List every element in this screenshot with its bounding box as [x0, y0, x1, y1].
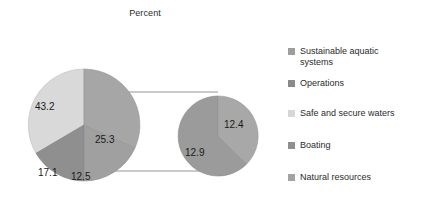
secondary-slice-label-2: 12.4 — [224, 119, 244, 130]
main-slice-label-2: 25.3 — [95, 134, 115, 145]
legend-item-operations[interactable]: Operations — [288, 78, 428, 89]
legend-swatch-icon — [288, 80, 295, 87]
secondary-slice-label-1: 12.9 — [185, 147, 205, 158]
main-slice-label-1: 43.2 — [35, 101, 55, 112]
legend-item-safe-and-secure-waters[interactable]: Safe and secure waters — [288, 108, 428, 119]
legend-label-natural-resources: Natural resources — [300, 172, 371, 183]
legend-swatch-icon — [288, 110, 295, 117]
legend-item-boating[interactable]: Boating — [288, 140, 428, 151]
legend-item-natural-resources[interactable]: Natural resources — [288, 172, 428, 183]
main-pie: 43.2 25.3 17.1 12.5 — [28, 69, 140, 182]
legend-label-operations: Operations — [300, 78, 344, 89]
legend-swatch-icon — [288, 142, 295, 149]
legend-label-sustainable-aquatic-systems: Sustainable aquatic systems — [300, 46, 379, 68]
pie-of-pie-chart: Percent 43.2 25.3 17.1 12.5 — [0, 0, 428, 213]
legend-item-sustainable-aquatic-systems[interactable]: Sustainable aquatic systems — [288, 46, 428, 68]
legend-label-safe-and-secure-waters: Safe and secure waters — [300, 108, 395, 119]
legend-swatch-icon — [288, 48, 295, 55]
chart-legend: Sustainable aquatic systems Operations S… — [288, 46, 428, 183]
main-slice-label-3: 17.1 — [38, 167, 58, 178]
legend-swatch-icon — [288, 174, 295, 181]
secondary-pie: 12.4 12.9 — [178, 96, 258, 176]
legend-label-boating: Boating — [300, 140, 331, 151]
main-slice-label-4: 12.5 — [71, 171, 91, 182]
